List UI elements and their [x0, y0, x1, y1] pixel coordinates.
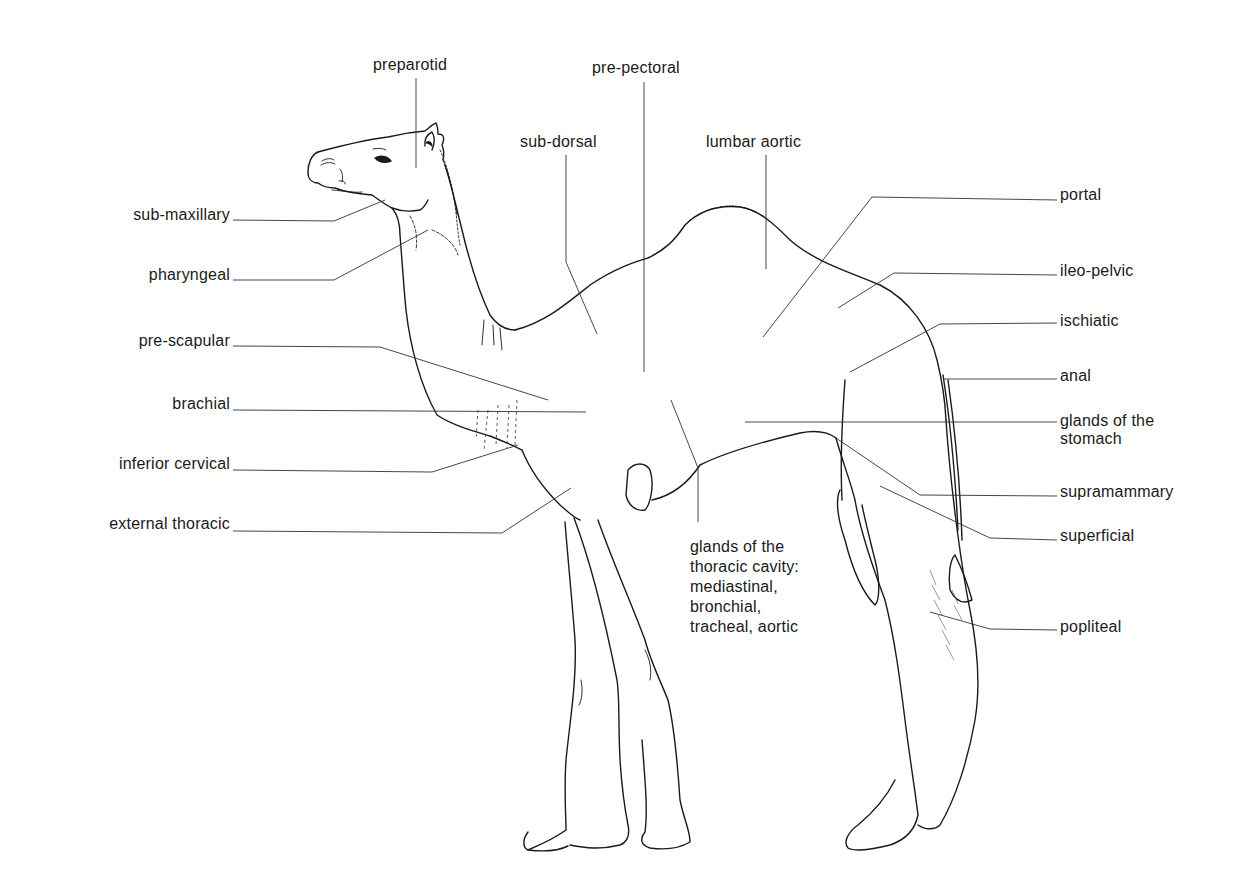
- label-sub-dorsal: sub-dorsal: [520, 133, 597, 150]
- label-portal: portal: [1060, 186, 1101, 203]
- lymph-node-diagram: preparotid pre-pectoral sub-dorsal lumba…: [0, 0, 1235, 884]
- label-glands-of-the-thoracic-cavity: glands of the thoracic cavity: mediastin…: [690, 537, 799, 637]
- label-pre-pectoral: pre-pectoral: [592, 59, 680, 76]
- label-popliteal: popliteal: [1060, 618, 1121, 635]
- label-pharyngeal: pharyngeal: [60, 266, 230, 283]
- label-ileo-pelvic: ileo-pelvic: [1060, 262, 1133, 279]
- label-sub-maxillary: sub-maxillary: [60, 206, 230, 223]
- label-preparotid: preparotid: [373, 56, 447, 73]
- camel-body-outline: [308, 123, 978, 851]
- label-lumbar-aortic: lumbar aortic: [706, 133, 801, 150]
- label-glands-of-the-stomach: glands of the stomach: [1060, 412, 1154, 448]
- label-supramammary: supramammary: [1060, 483, 1174, 500]
- camel-illustration: [0, 0, 1235, 884]
- label-pre-scapular: pre-scapular: [60, 332, 230, 349]
- label-brachial: brachial: [60, 395, 230, 412]
- label-external-thoracic: external thoracic: [40, 515, 230, 532]
- label-anal: anal: [1060, 367, 1091, 384]
- label-inferior-cervical: inferior cervical: [40, 455, 230, 472]
- leader-lines: [233, 78, 1057, 630]
- label-ischiatic: ischiatic: [1060, 312, 1119, 329]
- label-superficial: superficial: [1060, 527, 1134, 544]
